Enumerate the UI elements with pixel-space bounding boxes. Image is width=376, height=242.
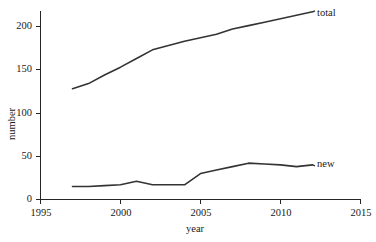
y-tick-label-0: 0	[8, 194, 32, 205]
line-chart: 0 50 100 150 200 1995 2000 2005 2010 201…	[0, 0, 376, 242]
series-line-new	[73, 163, 313, 186]
series-line-total	[73, 12, 313, 89]
series-leader-new	[313, 165, 316, 166]
series-label-total: total	[317, 7, 336, 18]
series-leader-total	[313, 11, 316, 12]
x-tick-label-1995: 1995	[21, 208, 61, 219]
y-tick-label-50: 50	[8, 151, 32, 162]
y-axis-title: number	[6, 108, 17, 140]
x-tick-label-2010: 2010	[261, 208, 301, 219]
x-axis-title: year	[186, 223, 204, 234]
x-tick-label-2000: 2000	[101, 208, 141, 219]
y-tick-label-150: 150	[8, 64, 32, 75]
x-tick-label-2015: 2015	[341, 208, 376, 219]
x-axis-ticks	[41, 200, 361, 205]
series-label-new: new	[317, 158, 335, 169]
y-axis-ticks	[36, 27, 41, 200]
plot-area	[0, 0, 376, 242]
y-tick-label-200: 200	[8, 21, 32, 32]
x-tick-label-2005: 2005	[181, 208, 221, 219]
